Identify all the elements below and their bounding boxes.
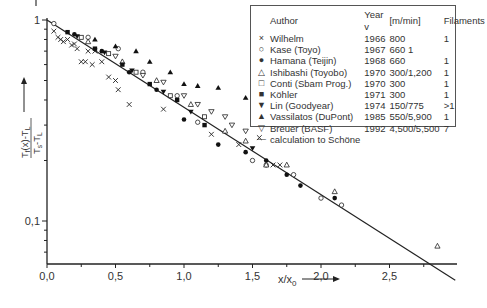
legend: Author Year v [m/min] Filaments ×Wilhelm…	[250, 5, 456, 127]
legend-filaments: 1	[442, 78, 487, 89]
legend-author: Ishibashi (Toyobo)	[268, 67, 362, 78]
y-tick-1: 1	[34, 14, 40, 26]
legend-header-author: Author	[268, 9, 362, 33]
legend-author: Wilhelm	[268, 33, 362, 44]
legend-filaments: 1	[442, 111, 487, 122]
legend-marker-icon: ▽	[255, 123, 268, 134]
legend-marker-icon: —	[255, 134, 268, 145]
legend-header: Author Year v [m/min] Filaments	[255, 9, 487, 33]
svg-text:Ts-TL: Ts-TL	[31, 132, 43, 154]
legend-author: Kase (Toyo)	[268, 44, 362, 55]
legend-author: Breuer (BASF)	[268, 123, 362, 134]
legend-row: ×Wilhelm19668001	[255, 33, 487, 44]
legend-marker-icon: ○	[255, 44, 268, 55]
legend-author: calculation to Schöne	[268, 134, 362, 145]
legend-speed: 300/1,200	[387, 67, 441, 78]
legend-filaments: 1	[442, 33, 487, 44]
legend-filaments: 1	[442, 89, 487, 100]
legend-marker-icon: ×	[255, 33, 268, 44]
legend-year: 1970	[362, 67, 387, 78]
legend-row: ●Hamana (Teijin)19686601	[255, 55, 487, 66]
x-tick-label: 0,5	[108, 270, 123, 282]
legend-filaments	[442, 134, 487, 145]
legend-row: ▲Vassilatos (DuPont)1985550/5,9001	[255, 111, 487, 122]
y-axis-label: Tf(x)-TL Ts-TL	[19, 118, 43, 158]
legend-author: Lin (Goodyear)	[268, 100, 362, 111]
legend-filaments: >1	[442, 100, 487, 111]
legend-filaments: 1	[442, 67, 487, 78]
y-axis-arrow-icon	[21, 77, 27, 112]
x-axis-label: x/x0	[278, 273, 297, 288]
legend-author: Hamana (Teijin)	[268, 55, 362, 66]
legend-speed: 4,500/5,500	[387, 123, 441, 134]
svg-text:Tf(x)-TL: Tf(x)-TL	[19, 126, 31, 158]
legend-speed: 800	[387, 33, 441, 44]
legend-year: 1970	[362, 78, 387, 89]
y-tick-0-1: 0,1	[25, 215, 40, 227]
legend-year: 1971	[362, 89, 387, 100]
legend-year: 1966	[362, 33, 387, 44]
legend-author: Conti (Sbam Prog.)	[268, 78, 362, 89]
legend-author: Vassilatos (DuPont)	[268, 111, 362, 122]
x-tick-label: 1,0	[176, 270, 191, 282]
x-tick-labels: 0,00,51,01,52,02,5	[39, 270, 397, 282]
legend-header-v: [m/min]	[387, 9, 441, 33]
legend-year: 1992	[362, 123, 387, 134]
legend-row: ▼Lin (Goodyear)1974150/775>1	[255, 100, 487, 111]
legend-marker-icon: ■	[255, 89, 268, 100]
legend-year	[362, 134, 387, 145]
legend-marker-icon: △	[255, 67, 268, 78]
x-tick-label: 2,0	[313, 270, 328, 282]
legend-header-year: Year v	[362, 9, 387, 33]
legend-year: 1974	[362, 100, 387, 111]
legend-speed: 660 1	[387, 44, 441, 55]
legend-row: □Conti (Sbam Prog.)19703001	[255, 78, 487, 89]
legend-table: Author Year v [m/min] Filaments ×Wilhelm…	[255, 9, 487, 145]
legend-speed: 300	[387, 78, 441, 89]
legend-marker-icon: ▼	[255, 100, 268, 111]
legend-marker-icon: □	[255, 78, 268, 89]
legend-speed	[387, 134, 441, 145]
legend-marker-icon: ●	[255, 55, 268, 66]
legend-marker-icon: ▲	[255, 111, 268, 122]
legend-row: △Ishibashi (Toyobo)1970300/1,2001	[255, 67, 487, 78]
legend-year: 1985	[362, 111, 387, 122]
legend-speed: 150/775	[387, 100, 441, 111]
x-tick-label: 1,5	[245, 270, 260, 282]
legend-filaments: 7	[442, 123, 487, 134]
legend-author: Köhler	[268, 89, 362, 100]
x-tick-label: 2,5	[382, 270, 397, 282]
legend-header-filaments: Filaments	[442, 9, 487, 33]
x-tick-label: 0,0	[39, 270, 54, 282]
legend-year: 1967	[362, 44, 387, 55]
legend-year: 1968	[362, 55, 387, 66]
legend-row: —calculation to Schöne	[255, 134, 487, 145]
legend-row: ■Köhler19713001	[255, 89, 487, 100]
legend-speed: 550/5,900	[387, 111, 441, 122]
legend-filaments	[442, 44, 487, 55]
legend-speed: 660	[387, 55, 441, 66]
legend-row: ▽Breuer (BASF)19924,500/5,5007	[255, 123, 487, 134]
legend-row: ○Kase (Toyo)1967660 1	[255, 44, 487, 55]
legend-speed: 300	[387, 89, 441, 100]
legend-filaments: 1	[442, 55, 487, 66]
